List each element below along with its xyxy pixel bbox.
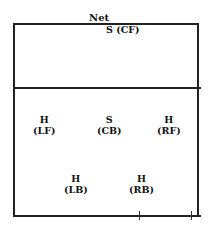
player-role: H (157, 114, 181, 125)
net-label: Net (89, 12, 109, 23)
player-role: S (97, 114, 122, 125)
player-role: H (33, 114, 55, 125)
player-setter-cf: S (CF) (106, 24, 139, 35)
player-position: (CB) (97, 125, 122, 136)
player-role: H (64, 173, 88, 184)
player-cb: S (CB) (97, 114, 122, 136)
player-lb: H (LB) (64, 173, 88, 195)
player-role: H (129, 173, 154, 184)
player-rb: H (RB) (129, 173, 154, 195)
player-rf: H (RF) (157, 114, 181, 136)
attack-line (13, 87, 201, 89)
player-lf: H (LF) (33, 114, 55, 136)
player-position: (LF) (33, 125, 55, 136)
end-line (13, 215, 201, 217)
player-position: (RB) (129, 184, 154, 195)
player-position: (LB) (64, 184, 88, 195)
end-line-tick-left (139, 211, 140, 220)
player-label: S (CF) (106, 24, 139, 35)
player-position: (RF) (157, 125, 181, 136)
end-line-tick-right (191, 211, 192, 220)
